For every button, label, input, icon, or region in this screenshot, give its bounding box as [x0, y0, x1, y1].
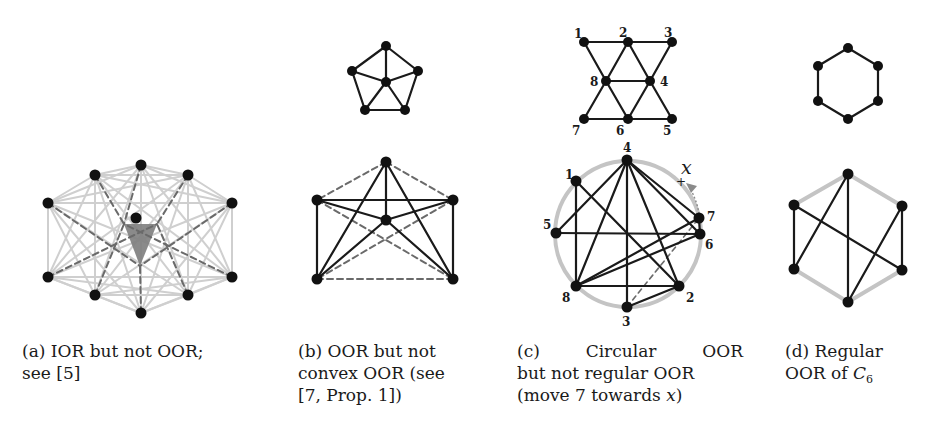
edge — [606, 81, 628, 119]
vertex-label-6: 6 — [705, 238, 713, 252]
vertex — [789, 200, 800, 211]
caption-c: (c)CircularOOR but not regular OOR (move… — [517, 340, 743, 406]
vertex-8 — [571, 281, 582, 292]
vertex-label-8: 8 — [590, 75, 598, 89]
edge-gray — [848, 174, 902, 206]
edge — [386, 46, 418, 71]
vertex-label-7: 7 — [572, 124, 580, 138]
vertex — [413, 66, 423, 76]
caption-d-line2: OOR of — [785, 363, 853, 383]
graph-b-wheel — [347, 41, 423, 115]
caption-b-label: (b) — [298, 341, 322, 361]
edge — [818, 48, 848, 66]
edge — [317, 162, 386, 279]
vertex — [400, 105, 410, 115]
vertex — [843, 43, 853, 53]
edge — [386, 82, 405, 110]
edge — [606, 42, 628, 81]
vertex-label-3: 3 — [664, 26, 672, 40]
vertex-label-5: 5 — [543, 218, 551, 232]
caption-a-text: IOR but not OOR; — [51, 341, 204, 361]
vertex-label-4: 4 — [660, 75, 668, 89]
caption-c-line3-pre: (move 7 towards — [517, 385, 666, 405]
vertex — [843, 169, 854, 180]
edge — [386, 200, 453, 220]
vertex — [381, 215, 392, 226]
caption-a-label: (a) — [22, 341, 45, 361]
graph-d-hexagon-c6 — [813, 43, 883, 124]
caption-c-var-x: x — [666, 385, 676, 405]
vertex — [347, 66, 357, 76]
edge — [352, 71, 365, 110]
vertex-label-6: 6 — [616, 124, 624, 138]
vertex-3 — [622, 302, 633, 313]
vertex — [873, 96, 883, 106]
caption-c-word2: OOR — [702, 340, 743, 362]
caption-d-sub-6: 6 — [866, 373, 873, 386]
vertex — [381, 157, 392, 168]
edge — [627, 160, 679, 286]
edge — [405, 71, 418, 110]
vertex — [136, 308, 147, 319]
vertex — [227, 198, 238, 209]
vertex-5 — [551, 228, 562, 239]
edge — [386, 71, 418, 82]
vertex-6 — [623, 114, 633, 124]
caption-b-text: OOR but not — [328, 341, 436, 361]
vertex-label-1: 1 — [574, 27, 582, 41]
vertex — [90, 290, 101, 301]
vertex-7 — [579, 114, 589, 124]
vertex — [843, 114, 853, 124]
vertex-label-7: 7 — [707, 210, 715, 224]
caption-d: (d) Regular OOR of C6 — [785, 340, 935, 391]
vertex — [843, 297, 854, 308]
vertex — [183, 290, 194, 301]
caption-a: (a) IOR but not OOR; see [5] — [22, 340, 262, 384]
graph-c-circular-oor: 12345678+x — [543, 141, 715, 329]
vertex — [136, 160, 147, 171]
vertex — [90, 170, 101, 181]
vertex-7 — [694, 213, 705, 224]
edge — [556, 233, 700, 234]
graph-b-oor-drawing — [312, 157, 459, 285]
caption-b: (b) OOR but not convex OOR (see [7, Prop… — [298, 340, 498, 406]
vertex-4 — [645, 76, 655, 86]
vertex — [312, 195, 323, 206]
vertex-label-3: 3 — [622, 315, 630, 329]
caption-c-label: (c) — [517, 340, 540, 362]
center-vertex — [131, 213, 142, 224]
caption-c-line2: but not regular OOR — [517, 362, 743, 384]
vertex-label-2: 2 — [686, 291, 694, 305]
vertex — [43, 198, 54, 209]
edge — [365, 82, 386, 110]
vertex — [227, 272, 238, 283]
vertex-label-8: 8 — [562, 291, 570, 305]
edge — [848, 101, 878, 119]
vertex — [360, 105, 370, 115]
edge — [317, 220, 386, 279]
edge — [848, 48, 878, 66]
vertex — [813, 61, 823, 71]
vertex-label-2: 2 — [619, 26, 627, 40]
vertex — [381, 41, 391, 51]
edge — [628, 81, 650, 119]
caption-b-line2: convex OOR (see — [298, 362, 498, 384]
vertex — [873, 61, 883, 71]
caption-d-label: (d) — [785, 341, 809, 361]
graph-c-triangular-grid: 12345678 — [572, 26, 677, 138]
caption-d-var-c: C — [853, 363, 866, 383]
vertex-8 — [601, 76, 611, 86]
edge — [352, 46, 386, 71]
edge — [386, 220, 453, 279]
vertex-5 — [667, 114, 677, 124]
vertex — [183, 170, 194, 181]
vertex — [312, 274, 323, 285]
vertex — [448, 195, 459, 206]
vertex — [813, 96, 823, 106]
graph-a-ior-not-oor — [43, 160, 238, 319]
edge — [818, 101, 848, 119]
edge — [576, 218, 699, 286]
target-x-label: x — [681, 156, 692, 178]
vertex-2 — [674, 281, 685, 292]
edge — [352, 71, 386, 82]
